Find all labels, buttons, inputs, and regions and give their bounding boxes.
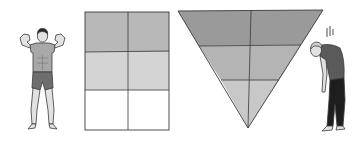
- filled-grid: [85, 12, 169, 130]
- left-foot: [322, 126, 333, 131]
- tired-man-figure: [311, 26, 346, 131]
- grid-row-1: [85, 12, 169, 52]
- pants: [327, 78, 345, 126]
- grid-row-2: [85, 52, 169, 90]
- right-leg: [45, 88, 54, 124]
- right-foot: [49, 124, 57, 129]
- left-arm: [20, 34, 31, 48]
- illustration: [0, 0, 362, 144]
- left-foot: [28, 124, 36, 129]
- arm: [320, 56, 327, 92]
- right-arm: [54, 34, 65, 48]
- grid-row-3: [85, 90, 169, 130]
- right-foot: [336, 126, 345, 130]
- triangle-band-3: [221, 80, 279, 128]
- shorts: [32, 72, 53, 90]
- strong-man-figure: [20, 28, 65, 129]
- left-leg: [31, 88, 40, 124]
- inverted-triangle: [178, 10, 323, 128]
